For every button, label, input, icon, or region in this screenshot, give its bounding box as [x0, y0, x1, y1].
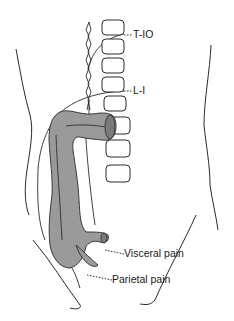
- vertebral-column: [102, 20, 130, 182]
- label-parietal-pain: Parietal pain: [112, 274, 170, 285]
- groin-line-right: [140, 215, 196, 305]
- colon: [49, 111, 116, 288]
- label-l1: L-I: [133, 85, 145, 96]
- body-outline-left: [16, 49, 32, 215]
- label-t10: T-IO: [133, 29, 153, 40]
- label-visceral-pain: Visceral pain: [124, 248, 184, 259]
- body-outline-right: [204, 45, 218, 230]
- anatomy-illustration: T-IO L-I Visceral pain Parietal pain: [0, 0, 234, 321]
